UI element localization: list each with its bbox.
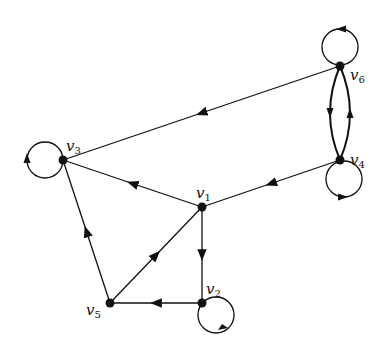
node-label-v5: v5 <box>86 301 101 320</box>
loop-v3 <box>27 142 63 178</box>
nodes: v1v2v3v4v5v6 <box>59 62 365 321</box>
node-label-v2: v2 <box>206 280 221 299</box>
arrow-icon <box>336 26 346 33</box>
loop-v6 <box>322 29 358 65</box>
arrow-icon <box>24 153 31 163</box>
edge-v4-v1 <box>202 160 340 207</box>
edges <box>63 66 354 303</box>
node-v3 <box>59 156 68 165</box>
edge-v6-v3 <box>63 66 340 160</box>
node-v4 <box>336 156 345 165</box>
node-label-v6: v6 <box>350 66 365 85</box>
edge-v5-v3 <box>63 160 110 303</box>
node-v6 <box>336 62 345 71</box>
node-v2 <box>198 299 207 308</box>
node-label-v3: v3 <box>66 137 81 156</box>
directed-graph: v1v2v3v4v5v6 <box>0 0 390 357</box>
arrow-icon <box>338 194 348 201</box>
node-label-v1: v1 <box>196 184 211 203</box>
edge-v5-v1 <box>110 207 202 303</box>
node-v5 <box>106 299 115 308</box>
node-label-v4: v4 <box>350 151 365 170</box>
node-v1 <box>198 203 207 212</box>
self-loops <box>24 26 363 334</box>
edge-v1-v3 <box>63 160 202 207</box>
